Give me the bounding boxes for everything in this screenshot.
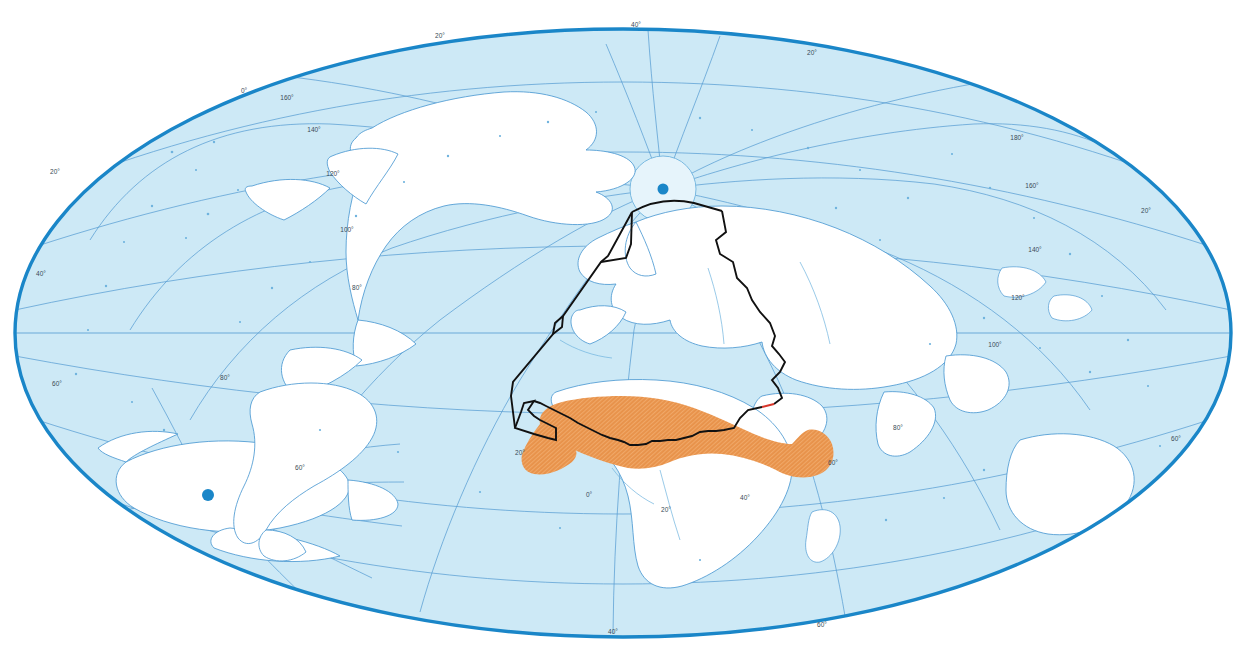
map-canvas: 20°40°20°0°160°140°120°100°80°20°40°60°2… xyxy=(0,0,1246,667)
graticule-label: 80° xyxy=(352,284,362,291)
graticule-label: 20° xyxy=(435,32,445,39)
graticule-label: 60° xyxy=(52,380,62,387)
graticule-label: 80° xyxy=(220,374,230,381)
graticule-label: 120° xyxy=(326,170,340,177)
graticule-label: 60° xyxy=(295,464,305,471)
graticule-label: 180° xyxy=(1010,134,1024,141)
graticule-label: 60° xyxy=(828,459,838,466)
graticule-label: 140° xyxy=(307,126,321,133)
graticule-label: 0° xyxy=(241,87,248,94)
world-map: 20°40°20°0°160°140°120°100°80°20°40°60°2… xyxy=(0,0,1246,667)
graticule-label: 20° xyxy=(661,506,671,513)
graticule-label: 40° xyxy=(608,628,618,635)
graticule-label: 40° xyxy=(740,494,750,501)
graticule-label: 20° xyxy=(50,168,60,175)
graticule-label: 160° xyxy=(280,94,294,101)
graticule-label: 20° xyxy=(1141,207,1151,214)
graticule-label: 100° xyxy=(340,226,354,233)
graticule-label: 40° xyxy=(631,21,641,28)
graticule-label: 0° xyxy=(586,491,593,498)
graticule-label: 40° xyxy=(36,270,46,277)
graticule-label: 60° xyxy=(817,621,827,628)
graticule-label: 20° xyxy=(807,49,817,56)
graticule-label: 60° xyxy=(1171,435,1181,442)
north-pole-marker xyxy=(658,184,669,195)
graticule-label: 140° xyxy=(1028,246,1042,253)
graticule-label: 80° xyxy=(893,424,903,431)
graticule-label: 100° xyxy=(988,341,1002,348)
graticule-label: 120° xyxy=(1011,294,1025,301)
south-pole-marker xyxy=(202,489,214,501)
graticule-label: 20° xyxy=(515,449,525,456)
graticule-label: 160° xyxy=(1025,182,1039,189)
